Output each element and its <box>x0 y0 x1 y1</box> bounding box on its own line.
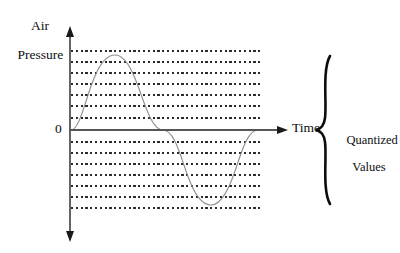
y-axis-arrowhead-top <box>66 26 74 37</box>
y-axis-label: Air Pressure <box>8 4 66 62</box>
y-axis-label-line2: Pressure <box>18 47 64 62</box>
y-axis-label-line1: Air <box>31 18 49 33</box>
x-axis <box>69 126 288 134</box>
x-axis-arrowhead <box>277 126 288 134</box>
quantized-values-label-line1: Quantized <box>346 133 397 147</box>
y-axis <box>66 26 74 242</box>
origin-label: 0 <box>55 122 62 137</box>
y-axis-arrowhead-bottom <box>66 231 74 242</box>
x-axis-label: Time <box>292 121 320 136</box>
quantized-values-label: Quantized Values <box>338 120 400 188</box>
quantized-values-label-line2: Values <box>338 161 400 175</box>
